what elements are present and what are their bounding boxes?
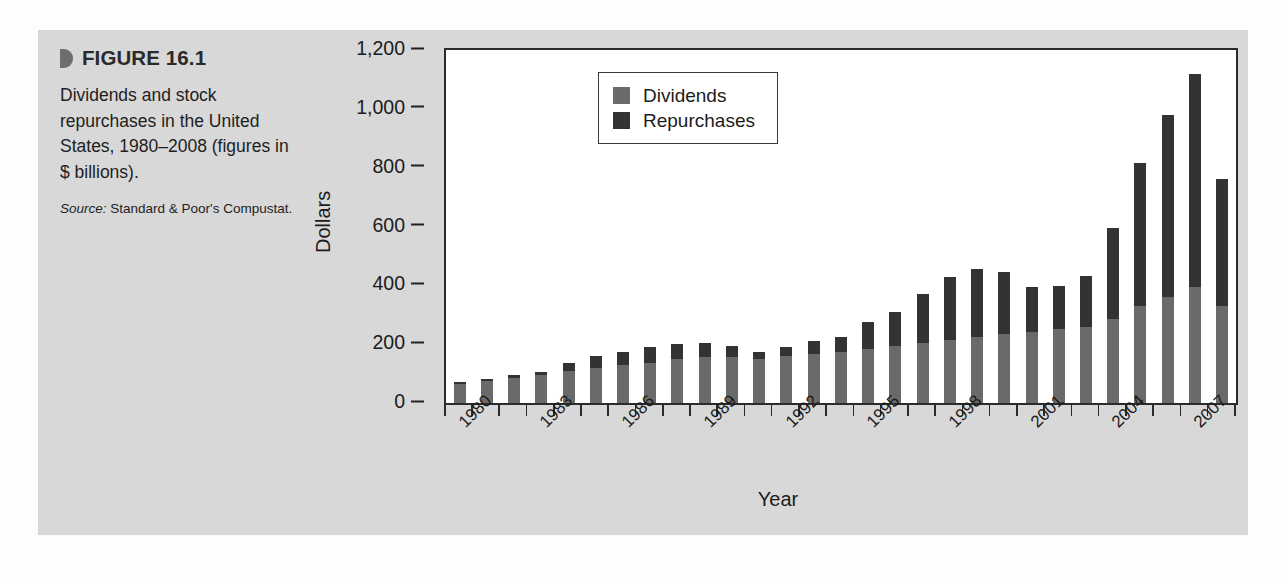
bar-slot	[1209, 50, 1236, 403]
y-axis-tick-mark	[411, 224, 424, 226]
y-axis-tick: 0	[394, 390, 424, 413]
legend-label: Repurchases	[643, 110, 755, 132]
figure-description: Dividends and stock repurchases in the U…	[60, 83, 300, 185]
chart-legend: DividendsRepurchases	[598, 72, 778, 144]
y-axis-tick: 600	[372, 213, 424, 236]
y-axis-tick-label: 400	[372, 272, 405, 295]
stacked-bar	[780, 347, 792, 403]
chart: Dollars 02004006008001,0001,200 Dividend…	[328, 48, 1228, 518]
stacked-bar	[1080, 276, 1092, 403]
stacked-bar	[944, 277, 956, 403]
stacked-bar	[917, 294, 929, 403]
y-axis-tick-label: 0	[394, 390, 405, 413]
x-axis-tick-mark	[498, 403, 500, 416]
bar-slot	[1100, 50, 1127, 403]
bar-segment-dividends	[780, 356, 792, 403]
bar-segment-dividends	[917, 343, 929, 403]
bar-segment-repurchases	[1162, 115, 1174, 297]
bar-segment-dividends	[454, 384, 466, 403]
y-axis-tick-label: 1,200	[356, 37, 405, 60]
source-label: Source:	[60, 201, 107, 216]
bar-slot	[1181, 50, 1208, 403]
bar-segment-repurchases	[753, 352, 765, 359]
x-axis-tick-mark	[1152, 403, 1154, 416]
y-axis-tick: 1,000	[356, 95, 424, 118]
y-axis-tick-mark	[411, 400, 424, 402]
legend-entry: Dividends	[613, 83, 755, 108]
bar-slot	[446, 50, 473, 403]
x-axis-tick-mark	[580, 403, 582, 416]
x-axis-tick-mark	[526, 403, 528, 416]
stacked-bar	[590, 356, 602, 403]
x-axis-tick-mark	[744, 403, 746, 416]
bar-slot	[555, 50, 582, 403]
bar-segment-dividends	[699, 357, 711, 403]
stacked-bar	[1026, 287, 1038, 403]
figure-heading: FIGURE 16.1	[60, 46, 300, 70]
bar-segment-dividends	[944, 340, 956, 403]
bar-slot	[1127, 50, 1154, 403]
bar-series-group	[446, 50, 1236, 403]
source-text: Standard & Poor's Compustat.	[110, 201, 292, 216]
y-axis-tick-label: 1,000	[356, 95, 405, 118]
y-axis-tick-mark	[411, 341, 424, 343]
bar-segment-dividends	[508, 378, 520, 403]
y-axis-tick: 400	[372, 272, 424, 295]
legend-swatch	[613, 87, 630, 104]
y-axis-tick-label: 200	[372, 331, 405, 354]
x-axis-tick-mark	[1180, 403, 1182, 416]
stacked-bar	[454, 382, 466, 403]
bar-segment-dividends	[1134, 306, 1146, 403]
bar-segment-repurchases	[1189, 74, 1201, 287]
x-axis-tick-mark	[444, 403, 446, 416]
stacked-bar	[1189, 74, 1201, 403]
x-axis-tick-mark	[989, 403, 991, 416]
stacked-bar	[1107, 228, 1119, 403]
bar-segment-repurchases	[780, 347, 792, 356]
x-axis-tick-mark	[934, 403, 936, 416]
x-axis-tick-mark	[1234, 403, 1236, 416]
bar-segment-repurchases	[971, 269, 983, 337]
bar-segment-dividends	[1080, 327, 1092, 403]
bar-slot	[882, 50, 909, 403]
bar-slot	[1072, 50, 1099, 403]
bar-segment-dividends	[1216, 306, 1228, 403]
y-axis-tick-mark	[411, 165, 424, 167]
bar-slot	[500, 50, 527, 403]
figure-caption: FIGURE 16.1 Dividends and stock repurcha…	[60, 46, 300, 218]
stacked-bar	[862, 322, 874, 403]
bar-slot	[473, 50, 500, 403]
stacked-bar	[617, 352, 629, 403]
bar-segment-dividends	[1107, 319, 1119, 403]
bar-segment-repurchases	[944, 277, 956, 340]
bar-slot	[936, 50, 963, 403]
bar-segment-repurchases	[998, 272, 1010, 334]
stacked-bar	[971, 269, 983, 403]
bar-segment-repurchases	[699, 343, 711, 356]
y-axis-tick-mark	[411, 106, 424, 108]
y-axis-tick: 200	[372, 331, 424, 354]
plot-area: DividendsRepurchases	[444, 48, 1238, 405]
stacked-bar	[889, 312, 901, 403]
bar-segment-repurchases	[1026, 287, 1038, 333]
bar-segment-repurchases	[1080, 276, 1092, 327]
figure-source: Source: Standard & Poor's Compustat.	[60, 200, 300, 218]
x-axis-tick-mark	[689, 403, 691, 416]
legend-label: Dividends	[643, 85, 726, 107]
bar-segment-repurchases	[563, 363, 575, 370]
bar-segment-repurchases	[835, 337, 847, 351]
bar-segment-repurchases	[1134, 163, 1146, 306]
bar-slot	[1154, 50, 1181, 403]
bar-segment-dividends	[535, 375, 547, 403]
bar-segment-repurchases	[1053, 286, 1065, 330]
bar-segment-dividends	[753, 359, 765, 403]
bar-segment-dividends	[862, 349, 874, 403]
bar-segment-repurchases	[1107, 228, 1119, 319]
bar-slot	[991, 50, 1018, 403]
x-axis-tick-mark	[825, 403, 827, 416]
bar-slot	[528, 50, 555, 403]
x-axis-tick-mark	[662, 403, 664, 416]
bar-segment-dividends	[1162, 297, 1174, 403]
stacked-bar	[1162, 115, 1174, 403]
bar-slot	[909, 50, 936, 403]
